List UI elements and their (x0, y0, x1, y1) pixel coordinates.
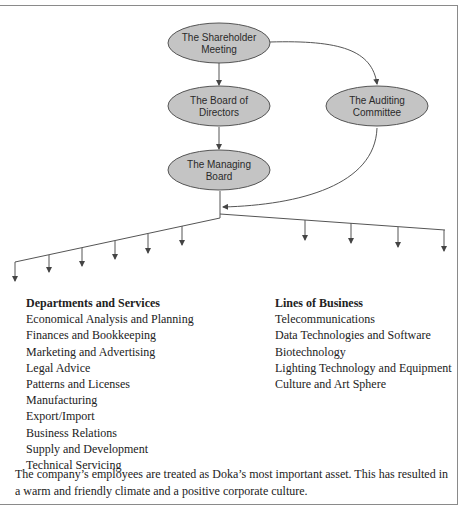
node-board-of-directors: The Board of Directors (168, 86, 270, 126)
business-line-item: Lighting Technology and Equipment (275, 360, 452, 376)
org-chart: The Shareholder Meeting The Board of Dir… (0, 0, 465, 290)
departments-list: Departments and Services Economical Anal… (26, 295, 194, 473)
node-label: The Board of (190, 95, 248, 106)
node-label: The Managing (187, 159, 251, 170)
lines-of-business-list: Lines of Business Telecommunications Dat… (275, 295, 452, 392)
business-line-item: Telecommunications (275, 311, 452, 327)
right-branch-line (220, 214, 445, 230)
edge-shareholder-to-auditing (270, 42, 377, 84)
node-managing-board: The Managing Board (168, 150, 270, 190)
business-line-item: Culture and Art Sphere (275, 376, 452, 392)
business-line-item: Data Technologies and Software (275, 327, 452, 343)
node-shareholder-meeting: The Shareholder Meeting (168, 23, 270, 63)
footer-caption: The company’s employees are treated as D… (15, 466, 455, 500)
node-label: Meeting (201, 44, 237, 55)
department-item: Patterns and Licenses (26, 376, 194, 392)
department-item: Manufacturing (26, 392, 194, 408)
node-label: Directors (199, 107, 239, 118)
node-label: The Auditing (349, 95, 405, 106)
department-item: Finances and Bookkeeping (26, 327, 194, 343)
left-branch-line (15, 218, 220, 262)
business-line-item: Biotechnology (275, 344, 452, 360)
department-item: Economical Analysis and Planning (26, 311, 194, 327)
left-branch-arrows (15, 226, 182, 281)
node-label: The Shareholder (182, 32, 257, 43)
department-item: Marketing and Advertising (26, 344, 194, 360)
node-label: Board (206, 171, 233, 182)
department-item: Legal Advice (26, 360, 194, 376)
department-item: Export/Import (26, 408, 194, 424)
department-item: Business Relations (26, 425, 194, 441)
lines-of-business-heading: Lines of Business (275, 295, 452, 311)
department-item: Supply and Development (26, 441, 194, 457)
node-label: Committee (353, 107, 402, 118)
node-auditing-committee: The Auditing Committee (326, 86, 428, 126)
departments-heading: Departments and Services (26, 295, 194, 311)
